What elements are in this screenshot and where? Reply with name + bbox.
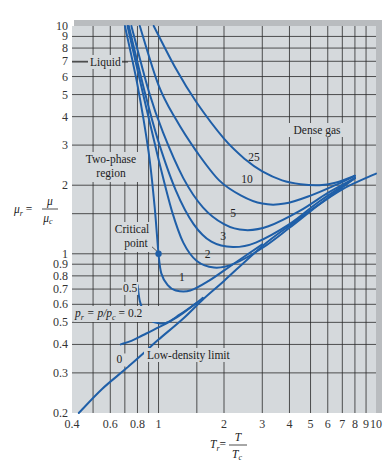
liquid-label: Liquid [90,56,121,69]
y-tick-label: 0.4 [53,337,68,351]
x-tick-label: 4 [286,417,292,431]
x-tick-label: 1 [156,417,162,431]
dense-gas-annotation: Dense gas [288,123,346,137]
svg-text:Tc: Tc [232,448,242,462]
curve-label: 10 [241,173,253,185]
y-tick-label: 0.5 [53,315,68,329]
y-tick-label: 4 [62,110,68,124]
y-tick-label: 10 [56,19,68,33]
curve-label: 2 [205,248,211,260]
svg-text:μ: μ [46,195,53,208]
x-tick-label: 3 [259,417,265,431]
x-axis-label: Tr= T Tc [210,431,247,462]
y-tick-label: 1 [62,247,68,261]
curve-label: 1 [179,271,185,283]
x-tick-label: 0.8 [130,417,145,431]
curve-label: 0 [116,353,122,365]
viscosity-chart: 0.20.30.40.50.60.70.80.912345678910 0.40… [0,0,392,468]
svg-text:Tr=: Tr= [210,438,226,453]
plot-frame-right [376,20,382,413]
x-tick-label: 0.6 [103,417,118,431]
svg-text:μc: μc [42,212,53,226]
x-axis-ticks: 0.40.60.812345678910 [65,417,383,431]
x-tick-label: 2 [221,417,227,431]
plot-frame-top [74,20,382,26]
curve-label: 0.5 [123,282,138,294]
y-tick-label: 2 [62,178,68,192]
critical-label-line1: Critical [115,223,150,235]
y-tick-label: 6 [62,70,68,84]
dense-gas-label: Dense gas [294,124,341,137]
curve-label: 3 [220,230,226,242]
curve-label: 25 [248,151,260,163]
x-tick-label: 7 [339,417,345,431]
x-tick-label: 0.4 [65,417,80,431]
y-axis-label: μr = μ μc [13,195,58,226]
critical-label-line2: point [124,237,148,250]
svg-text:μr =: μr = [13,203,32,218]
svg-text:T: T [235,431,243,443]
x-tick-label: 6 [325,417,331,431]
low-density-label: Low-density limit [147,349,231,362]
two-phase-label-line2: region [96,167,126,180]
curve-label: 5 [230,207,236,219]
y-tick-label: 0.7 [53,282,68,296]
x-tick-label: 8 [352,417,358,431]
two-phase-annotation: Two-phase region [82,152,140,182]
y-tick-label: 7 [62,54,68,68]
low-density-annotation: Low-density limit [144,348,234,362]
pr-annotation: pr = p/pc = 0.2 [74,306,166,322]
critical-point-annotation: Critical point [112,222,152,252]
critical-point-marker [155,251,161,257]
y-tick-label: 0.3 [53,366,68,380]
two-phase-label-line1: Two-phase [86,153,136,166]
y-tick-label: 3 [62,138,68,152]
x-tick-label: 9 [363,417,369,431]
y-axis-ticks: 0.20.30.40.50.60.70.80.912345678910 [53,19,68,420]
y-tick-label: 5 [62,88,68,102]
y-tick-label: 0.6 [53,297,68,311]
x-tick-label: 5 [308,417,314,431]
x-tick-label: 10 [370,417,382,431]
